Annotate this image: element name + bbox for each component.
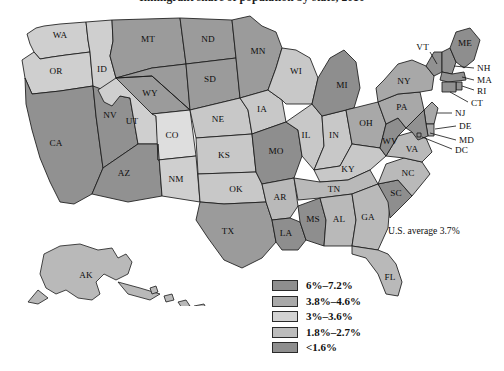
legend-swatch	[272, 280, 298, 291]
state-label-GA: GA	[361, 212, 375, 222]
state-label-ME: ME	[458, 38, 472, 48]
state-label-MT: MT	[141, 34, 155, 44]
state-DC[interactable]	[417, 133, 421, 137]
leader-line-DE	[435, 126, 456, 129]
state-label-PA: PA	[396, 102, 407, 112]
legend-label: <1.6%	[306, 342, 337, 353]
state-HI[interactable]	[150, 286, 208, 306]
leader-line-CT	[450, 92, 468, 102]
state-label-TN: TN	[328, 184, 341, 194]
state-label-AZ: AZ	[118, 168, 131, 178]
state-RI[interactable]	[456, 82, 462, 90]
state-label-AK: AK	[79, 270, 93, 280]
state-label-VT: VT	[416, 42, 429, 52]
legend-swatch	[272, 296, 298, 307]
state-label-CO: CO	[165, 130, 178, 140]
state-label-MS: MS	[306, 214, 320, 224]
state-label-IL: IL	[301, 130, 310, 140]
state-label-NM: NM	[168, 174, 183, 184]
state-CT[interactable]	[442, 82, 456, 92]
legend-item[interactable]: 1.8%–2.7%	[272, 326, 361, 339]
legend-label: 1.8%–2.7%	[306, 327, 361, 338]
state-label-ID: ID	[97, 64, 107, 74]
legend-label: 3.8%–4.6%	[306, 296, 361, 307]
state-label-MO: MO	[268, 146, 283, 156]
state-label-RI: RI	[477, 86, 487, 96]
state-label-UT: UT	[126, 116, 139, 126]
state-label-CA: CA	[49, 138, 62, 148]
state-label-NV: NV	[103, 110, 117, 120]
state-label-FL: FL	[384, 272, 395, 282]
state-AK[interactable]	[28, 244, 160, 304]
state-label-DE: DE	[459, 121, 472, 131]
state-label-OH: OH	[359, 118, 373, 128]
map-legend: 6%–7.2% 3.8%–4.6% 3%–3.6% 1.8%–2.7% <1.6…	[272, 279, 361, 354]
legend-item[interactable]: 3%–3.6%	[272, 310, 361, 323]
state-label-VA: VA	[406, 144, 419, 154]
state-NJ[interactable]	[424, 102, 438, 124]
state-label-CT: CT	[471, 98, 483, 108]
legend-swatch	[272, 342, 298, 353]
state-TX[interactable]	[196, 202, 276, 268]
state-label-WY: WY	[142, 88, 158, 98]
legend-swatch	[272, 327, 298, 338]
state-label-HI: HI	[167, 304, 177, 306]
state-CA[interactable]	[25, 78, 103, 204]
legend-item[interactable]: 3.8%–4.6%	[272, 295, 361, 308]
leader-line-MD	[430, 133, 456, 140]
state-label-NE: NE	[212, 114, 225, 124]
choropleth-map-figure: Immigrant share of population by state, …	[0, 0, 504, 371]
state-label-ND: ND	[201, 34, 215, 44]
legend-item[interactable]: 6%–7.2%	[272, 279, 361, 292]
legend-item[interactable]: <1.6%	[272, 341, 361, 354]
state-label-NC: NC	[401, 168, 414, 178]
leader-line-RI	[462, 86, 474, 90]
state-label-IN: IN	[329, 130, 339, 140]
state-label-MD: MD	[459, 135, 474, 145]
state-label-KY: KY	[341, 164, 355, 174]
state-label-AL: AL	[333, 214, 346, 224]
state-label-AR: AR	[273, 192, 287, 202]
state-label-DC: DC	[455, 145, 468, 155]
state-label-SC: SC	[390, 188, 402, 198]
state-label-OR: OR	[49, 66, 63, 76]
state-label-KS: KS	[218, 150, 230, 160]
legend-label: 6%–7.2%	[306, 280, 353, 291]
legend-label: 3%–3.6%	[306, 311, 353, 322]
state-label-NJ: NJ	[455, 108, 466, 118]
state-label-WV: WV	[382, 136, 398, 146]
state-label-NH: NH	[477, 63, 491, 73]
legend-swatch	[272, 311, 298, 322]
state-label-OK: OK	[229, 184, 243, 194]
state-label-WI: WI	[290, 66, 302, 76]
map-canvas: WA OR ID CA NV UT AZ MT WY CO NM ND SD N…	[0, 6, 504, 306]
state-label-MI: MI	[336, 80, 348, 90]
us-average-annotation: U.S. average 3.7%	[388, 225, 460, 236]
state-label-TX: TX	[222, 226, 235, 236]
state-label-MA: MA	[477, 75, 492, 85]
state-label-IA: IA	[257, 104, 267, 114]
state-label-MN: MN	[250, 46, 265, 56]
state-label-NY: NY	[397, 76, 411, 86]
state-label-LA: LA	[280, 228, 293, 238]
state-label-WA: WA	[53, 30, 68, 40]
state-label-SD: SD	[204, 74, 216, 84]
page-title: Immigrant share of population by state, …	[139, 0, 365, 3]
